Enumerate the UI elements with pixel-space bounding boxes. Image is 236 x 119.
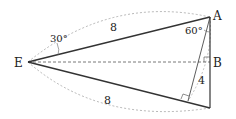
side-ec xyxy=(28,62,210,108)
label-angle-a: 60° xyxy=(185,25,203,36)
label-angle-e: 30° xyxy=(50,33,68,44)
label-a: A xyxy=(212,9,222,23)
label-side-perp: 4 xyxy=(198,74,205,87)
label-side-ec: 8 xyxy=(104,94,111,107)
label-side-ea: 8 xyxy=(110,21,117,34)
geometry-diagram: E A B 30° 60° 8 8 4 xyxy=(0,0,236,119)
angle-arc-a xyxy=(204,30,210,32)
right-angle-h xyxy=(181,94,189,99)
label-e: E xyxy=(14,56,23,70)
label-b: B xyxy=(213,56,222,70)
angle-arc-e xyxy=(57,43,59,55)
